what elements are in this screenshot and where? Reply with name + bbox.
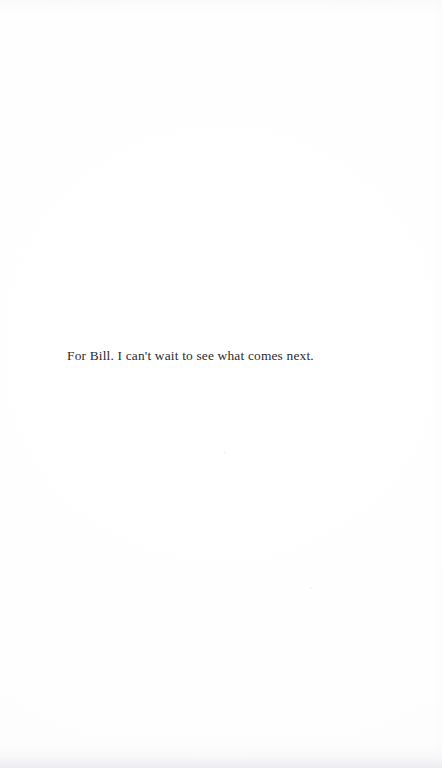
dedication-text: For Bill. I can't wait to see what comes… [67, 347, 387, 365]
scan-shadow-top-edge [0, 0, 442, 14]
scan-speck [310, 587, 312, 589]
dedication-page: For Bill. I can't wait to see what comes… [0, 0, 442, 768]
paper-background [0, 0, 442, 768]
scan-speck [224, 451, 226, 454]
scan-shadow-bottom-edge [0, 742, 442, 768]
scan-shadow-right-edge [432, 0, 442, 768]
